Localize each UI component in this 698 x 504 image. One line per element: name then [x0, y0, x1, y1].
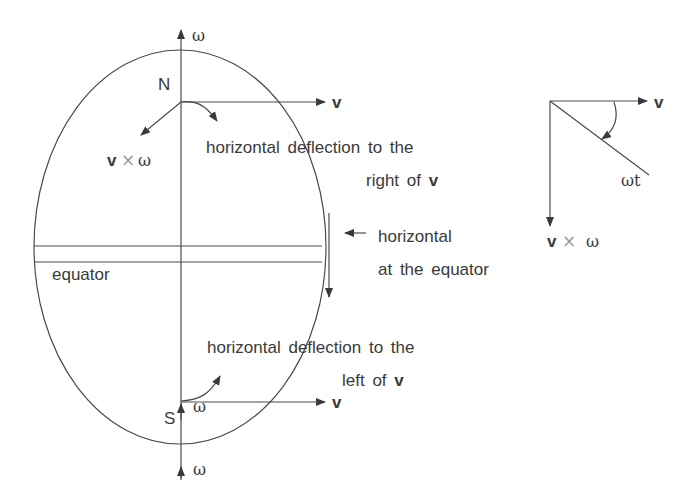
deflection-left-line2: left of v [342, 371, 404, 390]
deflection-left-line1: horizontal deflection to the [207, 338, 414, 357]
coriolis-diagram: ω N v v × ω horizontal deflection to the… [0, 0, 698, 504]
south-v-label: v [332, 393, 342, 412]
inset-rotated-line [550, 101, 649, 175]
north-vxomega-v: v [107, 151, 117, 170]
north-label: N [158, 75, 170, 94]
equator-label: equator [52, 265, 110, 284]
north-vxomega-omega: ω [138, 151, 151, 170]
inset-v-label: v [654, 93, 664, 112]
inset-cross-times: × [562, 231, 576, 251]
omega-top-label: ω [192, 26, 205, 45]
inset-cross-omega: ω [586, 232, 599, 251]
earth-outline [34, 50, 326, 444]
deflection-left-prefix: left of [342, 371, 394, 390]
north-vxomega-times: × [121, 150, 135, 170]
inset-angle-arc [602, 102, 616, 139]
deflection-left-v: v [394, 371, 404, 390]
north-v-label: v [332, 93, 342, 112]
north-deflection-curve [181, 102, 217, 121]
deflection-right-prefix: right of [366, 171, 429, 190]
inset-cross-v: v [547, 232, 557, 251]
north-vxomega-arrow [141, 102, 181, 135]
omega-mid-label: ω [193, 397, 206, 416]
inset-angle-label: ωt [621, 171, 641, 190]
deflection-right-v: v [429, 171, 439, 190]
south-label: S [164, 409, 175, 428]
equator-horizontal-line1: horizontal [378, 227, 452, 246]
omega-bottom-label: ω [193, 460, 206, 479]
deflection-right-line2: right of v [366, 171, 439, 190]
equator-horizontal-line2: at the equator [378, 260, 489, 279]
deflection-right-line1: horizontal deflection to the [206, 138, 413, 157]
